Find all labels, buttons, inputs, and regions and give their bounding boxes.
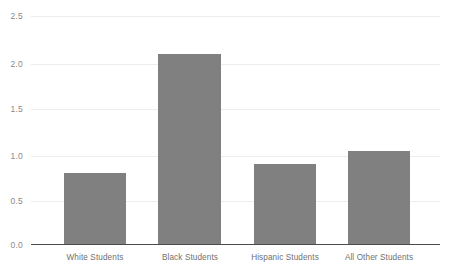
bar-chart: 2.5 2.0 1.5 1.0 0.5 0.0 White Students B… bbox=[0, 0, 451, 273]
y-tick-label-2.5: 2.5 bbox=[11, 12, 23, 21]
bar-all-other-students[interactable] bbox=[348, 151, 410, 245]
bar-black-students[interactable] bbox=[158, 54, 221, 245]
y-tick-label-0.0: 0.0 bbox=[11, 241, 23, 250]
plot-area bbox=[31, 16, 440, 245]
gridline-2.0 bbox=[31, 64, 440, 65]
x-tick-label-all-other-students: All Other Students bbox=[318, 252, 440, 264]
gridline-1.5 bbox=[31, 109, 440, 110]
y-tick-label-2.0: 2.0 bbox=[11, 60, 23, 69]
bar-hispanic-students[interactable] bbox=[254, 164, 316, 245]
y-tick-label-1.0: 1.0 bbox=[11, 152, 23, 161]
y-axis-tick-labels: 2.5 2.0 1.5 1.0 0.5 0.0 bbox=[0, 0, 27, 273]
gridline-2.5 bbox=[31, 16, 440, 17]
bar-white-students[interactable] bbox=[64, 173, 126, 245]
y-tick-label-1.5: 1.5 bbox=[11, 105, 23, 114]
x-axis-category-labels: White Students Black Students Hispanic S… bbox=[0, 252, 451, 268]
x-axis-line bbox=[31, 244, 440, 245]
y-tick-label-0.5: 0.5 bbox=[11, 197, 23, 206]
